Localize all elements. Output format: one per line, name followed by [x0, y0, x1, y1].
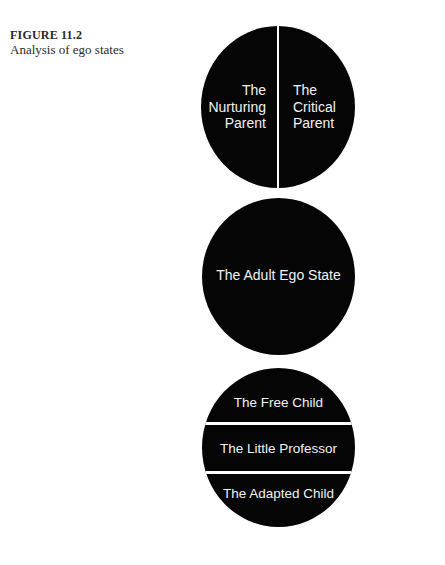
child-divider-top: [202, 422, 355, 425]
figure-caption: FIGURE 11.2 Analysis of ego states: [10, 28, 124, 57]
adult-ego-state-label: The Adult Ego State: [202, 267, 355, 283]
little-professor-label: The Little Professor: [202, 441, 355, 457]
parent-ego-state-circle: The Nurturing Parent The Critical Parent: [201, 26, 355, 188]
figure-number: FIGURE 11.2: [10, 28, 124, 42]
adapted-child-label: The Adapted Child: [202, 486, 355, 502]
critical-parent-label: The Critical Parent: [293, 82, 336, 132]
figure-description: Analysis of ego states: [10, 42, 124, 57]
parent-divider: [277, 26, 279, 188]
nurturing-parent-label: The Nurturing Parent: [208, 82, 266, 132]
adult-ego-state-circle: The Adult Ego State: [202, 198, 355, 355]
child-ego-state-circle: The Free Child The Little Professor The …: [202, 368, 355, 527]
child-divider-bottom: [202, 471, 355, 474]
free-child-label: The Free Child: [202, 395, 355, 411]
